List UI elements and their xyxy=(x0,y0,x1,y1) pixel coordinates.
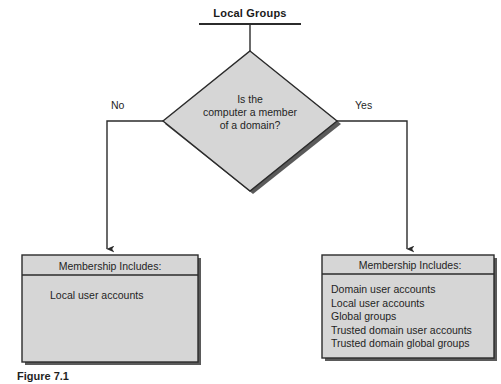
left-box-body: Local user accounts xyxy=(50,289,143,303)
figure-caption: Figure 7.1 xyxy=(17,370,69,382)
right-box-item: Local user accounts xyxy=(331,297,472,311)
right-box-item: Trusted domain global groups xyxy=(331,337,472,351)
branch-label-no: No xyxy=(111,99,124,111)
decision-question-line-3: of a domain? xyxy=(178,119,322,132)
flowchart-diagram: Local Groups Is the computer a member of… xyxy=(0,0,501,384)
right-box-item: Domain user accounts xyxy=(331,283,472,297)
left-box-item: Local user accounts xyxy=(50,289,143,303)
diagram-title: Local Groups xyxy=(196,7,304,19)
left-box-header: Membership Includes: xyxy=(24,260,196,272)
right-box-item: Global groups xyxy=(331,310,472,324)
connector-yes-branch xyxy=(337,121,407,249)
right-box-body: Domain user accounts Local user accounts… xyxy=(331,283,472,351)
decision-question-line-1: Is the xyxy=(178,93,322,106)
decision-question-line-2: computer a member xyxy=(178,106,322,119)
decision-question: Is the computer a member of a domain? xyxy=(178,93,322,132)
branch-label-yes: Yes xyxy=(355,99,372,111)
diagram-title-underline xyxy=(199,23,301,25)
right-box-item: Trusted domain user accounts xyxy=(331,324,472,338)
right-box-header: Membership Includes: xyxy=(324,259,496,271)
connector-no-branch xyxy=(107,121,163,249)
